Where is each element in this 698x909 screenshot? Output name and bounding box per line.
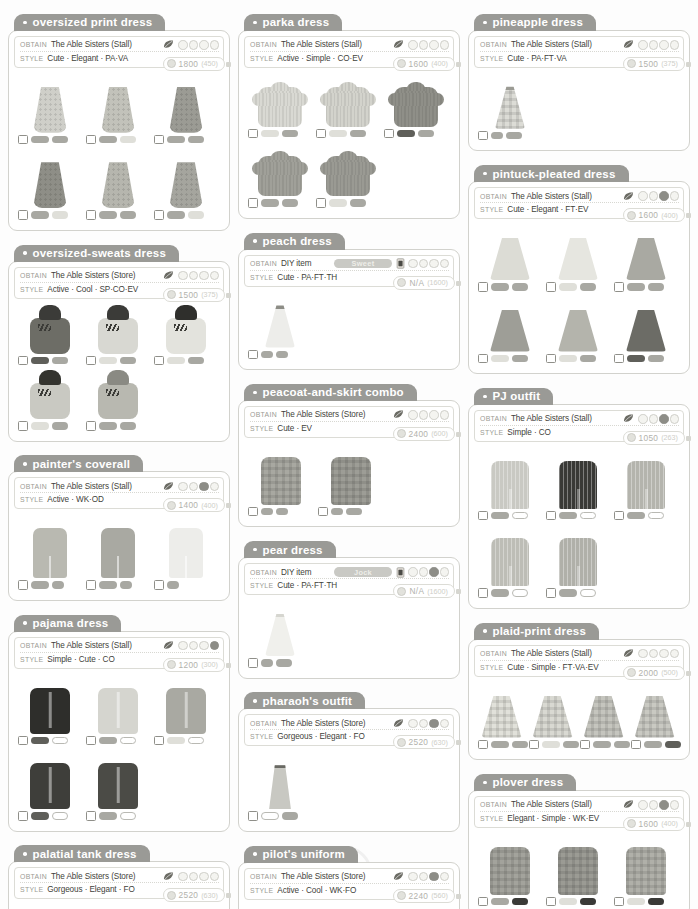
- variant-tag[interactable]: [512, 355, 528, 363]
- price-expand-icon[interactable]: [686, 213, 691, 218]
- variant-checkbox[interactable]: [478, 740, 488, 750]
- variant-tag[interactable]: [491, 741, 509, 749]
- price-expand-icon[interactable]: [226, 503, 231, 508]
- variant-checkbox[interactable]: [18, 421, 28, 431]
- variant-item[interactable]: [544, 296, 612, 364]
- variant-checkbox[interactable]: [18, 135, 28, 145]
- variant-item[interactable]: [476, 447, 544, 521]
- variant-checkbox[interactable]: [631, 740, 641, 750]
- variant-tag[interactable]: [261, 508, 273, 516]
- variant-checkbox[interactable]: [546, 897, 556, 907]
- variant-checkbox[interactable]: [478, 131, 488, 141]
- variant-item[interactable]: [612, 224, 680, 292]
- variant-item[interactable]: [246, 443, 316, 517]
- variant-tag[interactable]: [627, 355, 645, 363]
- variant-tag[interactable]: [282, 130, 298, 138]
- variant-tag[interactable]: [99, 581, 117, 589]
- variant-tag[interactable]: [120, 422, 136, 430]
- variant-item[interactable]: [629, 682, 680, 750]
- variant-checkbox[interactable]: [154, 135, 164, 145]
- variant-tag[interactable]: [31, 211, 49, 219]
- variant-checkbox[interactable]: [318, 507, 328, 517]
- variant-tag[interactable]: [512, 589, 528, 597]
- variant-tag[interactable]: [644, 741, 662, 749]
- variant-tag[interactable]: [120, 737, 136, 745]
- variant-tag[interactable]: [52, 357, 68, 365]
- variant-tag[interactable]: [665, 741, 681, 749]
- variant-item[interactable]: [152, 674, 220, 746]
- variant-item[interactable]: [382, 73, 450, 139]
- variant-tag[interactable]: [31, 357, 49, 365]
- price-expand-icon[interactable]: [226, 893, 231, 898]
- variant-tag[interactable]: [31, 737, 49, 745]
- variant-tag[interactable]: [397, 130, 415, 138]
- variant-tag[interactable]: [350, 199, 366, 207]
- variant-item[interactable]: [544, 447, 612, 521]
- variant-tag[interactable]: [559, 898, 577, 906]
- price-tag[interactable]: 1800(450): [163, 57, 225, 71]
- variant-tag[interactable]: [329, 199, 347, 207]
- variant-tag[interactable]: [593, 741, 611, 749]
- variant-tag[interactable]: [261, 812, 279, 820]
- variant-item[interactable]: [246, 142, 314, 208]
- variant-tag[interactable]: [559, 589, 577, 597]
- variant-checkbox[interactable]: [478, 511, 488, 521]
- variant-item[interactable]: [246, 73, 314, 139]
- variant-checkbox[interactable]: [248, 507, 258, 517]
- variant-item[interactable]: [382, 905, 450, 909]
- variant-checkbox[interactable]: [546, 511, 556, 521]
- variant-tag[interactable]: [276, 351, 288, 359]
- variant-checkbox[interactable]: [580, 740, 590, 750]
- variant-tag[interactable]: [559, 283, 577, 291]
- variant-tag[interactable]: [120, 136, 136, 144]
- variant-tag[interactable]: [99, 136, 117, 144]
- price-tag[interactable]: 1600(400): [623, 817, 685, 831]
- variant-checkbox[interactable]: [546, 588, 556, 598]
- variant-tag[interactable]: [512, 283, 528, 291]
- variant-tag[interactable]: [580, 512, 596, 520]
- price-tag[interactable]: 2520(630): [393, 735, 455, 749]
- variant-tag[interactable]: [580, 589, 596, 597]
- variant-checkbox[interactable]: [18, 356, 28, 366]
- variant-item[interactable]: [16, 904, 84, 909]
- variant-checkbox[interactable]: [529, 740, 539, 750]
- price-expand-icon[interactable]: [456, 281, 461, 286]
- price-tag[interactable]: 1200(300): [163, 658, 225, 672]
- variant-tag[interactable]: [648, 512, 664, 520]
- price-expand-icon[interactable]: [226, 663, 231, 668]
- variant-tag[interactable]: [282, 812, 298, 820]
- price-expand-icon[interactable]: [456, 894, 461, 899]
- variant-checkbox[interactable]: [86, 736, 96, 746]
- variant-tag[interactable]: [346, 508, 362, 516]
- variant-tag[interactable]: [31, 581, 49, 589]
- variant-item[interactable]: [544, 224, 612, 292]
- variant-item[interactable]: [544, 833, 612, 907]
- price-tag[interactable]: 1600(400): [623, 208, 685, 222]
- variant-checkbox[interactable]: [478, 354, 488, 364]
- variant-tag[interactable]: [491, 283, 509, 291]
- variant-item[interactable]: [578, 682, 629, 750]
- variant-tag[interactable]: [648, 283, 664, 291]
- variant-tag[interactable]: [167, 357, 185, 365]
- variant-tag[interactable]: [31, 422, 49, 430]
- price-expand-icon[interactable]: [686, 62, 691, 67]
- variant-checkbox[interactable]: [478, 897, 488, 907]
- variant-item[interactable]: [316, 443, 386, 517]
- variant-checkbox[interactable]: [154, 580, 164, 590]
- variant-checkbox[interactable]: [86, 811, 96, 821]
- variant-tag[interactable]: [52, 422, 68, 430]
- variant-item[interactable]: [16, 369, 84, 431]
- variant-checkbox[interactable]: [248, 811, 258, 821]
- price-tag[interactable]: N/A(1600): [393, 584, 455, 598]
- variant-checkbox[interactable]: [316, 129, 326, 139]
- variant-tag[interactable]: [167, 581, 179, 589]
- variant-tag[interactable]: [99, 357, 117, 365]
- variant-tag[interactable]: [559, 355, 577, 363]
- variant-item[interactable]: [476, 524, 544, 598]
- variant-item[interactable]: [16, 674, 84, 746]
- variant-tag[interactable]: [627, 512, 645, 520]
- variant-tag[interactable]: [261, 351, 273, 359]
- price-tag[interactable]: 1400(400): [163, 498, 225, 512]
- variant-tag[interactable]: [648, 898, 664, 906]
- variant-tag[interactable]: [627, 283, 645, 291]
